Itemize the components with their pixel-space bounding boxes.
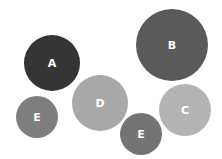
bubble-d: D	[72, 75, 128, 131]
bubble-label: E	[137, 128, 145, 141]
bubble-label: E	[33, 111, 41, 124]
bubble-b: B	[136, 9, 208, 81]
bubble-e: E	[120, 113, 162, 155]
bubble-label: B	[168, 39, 176, 52]
bubble-label: D	[95, 97, 104, 110]
bubble-label: C	[181, 104, 189, 117]
bubble-e: E	[16, 96, 58, 138]
bubble-diagram: ABDCEE	[0, 0, 222, 159]
bubble-c: C	[159, 84, 211, 136]
bubble-label: A	[48, 57, 57, 70]
bubble-a: A	[24, 35, 80, 91]
